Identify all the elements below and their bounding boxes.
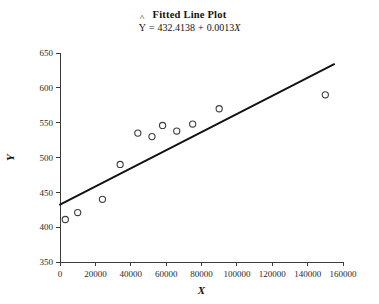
x-axis: 0200004000060000800001000001200001400001… <box>58 262 357 279</box>
data-point <box>159 122 165 128</box>
x-tick-label: 0 <box>58 269 63 279</box>
data-points <box>62 92 328 223</box>
data-point <box>117 161 123 167</box>
x-tick-label: 40000 <box>120 269 143 279</box>
y-tick-label: 550 <box>40 118 54 128</box>
plot-area: 350400450500550600650 020000400006000080… <box>0 0 379 304</box>
x-tick-label: 80000 <box>190 269 213 279</box>
x-tick-label: 120000 <box>259 269 287 279</box>
x-tick-label: 20000 <box>84 269 107 279</box>
y-tick-label: 600 <box>40 83 54 93</box>
footer-caption <box>8 297 378 304</box>
data-point <box>99 196 105 202</box>
data-point <box>75 209 81 215</box>
data-point <box>135 130 141 136</box>
data-point <box>190 121 196 127</box>
y-axis: 350400450500550600650 <box>40 48 61 267</box>
data-point <box>322 92 328 98</box>
y-tick-label: 400 <box>40 222 54 232</box>
data-point <box>149 134 155 140</box>
x-tick-label: 140000 <box>294 269 322 279</box>
data-point <box>216 106 222 112</box>
y-tick-label: 450 <box>40 188 54 198</box>
y-tick-label: 650 <box>40 48 54 58</box>
x-tick-label: 100000 <box>223 269 251 279</box>
y-tick-label: 500 <box>40 153 54 163</box>
x-tick-label: 60000 <box>155 269 178 279</box>
data-point <box>174 128 180 134</box>
data-point <box>62 216 68 222</box>
x-axis-title: X <box>197 284 206 296</box>
y-axis-title: Y <box>4 153 16 161</box>
y-tick-label: 350 <box>40 257 54 267</box>
fitted-regression-line <box>60 64 334 204</box>
fitted-line-plot: Fitted Line Plot Y=432.4138+0.0013X 3504… <box>0 0 379 304</box>
x-tick-label: 160000 <box>330 269 358 279</box>
